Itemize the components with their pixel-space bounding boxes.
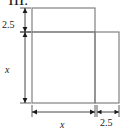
right-rectangle-outline bbox=[95, 32, 119, 103]
lower-square-outline bbox=[32, 32, 95, 103]
dimension-line-left bbox=[20, 32, 31, 103]
dimension-line-top-left bbox=[20, 8, 31, 32]
dimension-label-left: x bbox=[5, 65, 9, 75]
geometry-figure: 111. bbox=[0, 0, 125, 133]
upper-rectangle-outline bbox=[32, 8, 95, 32]
dimension-label-top-left: 2.5 bbox=[2, 20, 15, 30]
dimension-label-bottom: x bbox=[60, 120, 64, 130]
dimension-label-bottom-right: 2.5 bbox=[100, 118, 113, 128]
dimension-line-bottom-right bbox=[97, 105, 119, 117]
dimension-line-bottom bbox=[32, 105, 95, 117]
shape-drawing bbox=[0, 0, 125, 133]
